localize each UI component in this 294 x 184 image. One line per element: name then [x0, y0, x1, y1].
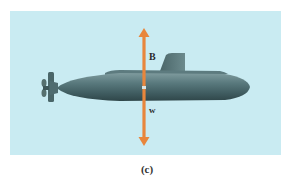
buoyancy-label: B	[149, 51, 156, 62]
submarine-diagram	[10, 11, 281, 155]
figure-panel: B w	[10, 11, 281, 155]
submarine-hull	[58, 73, 250, 101]
figure-caption: (c)	[0, 163, 294, 175]
weight-label: w	[149, 105, 156, 115]
